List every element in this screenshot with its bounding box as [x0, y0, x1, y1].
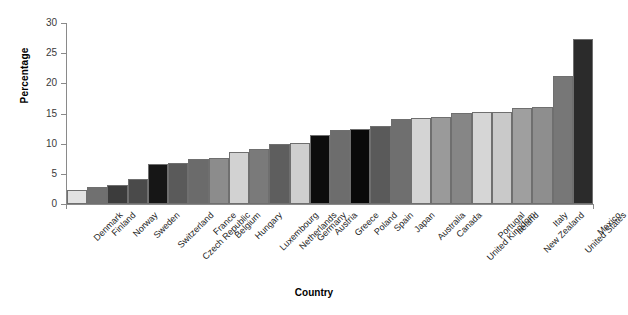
bar [249, 149, 269, 205]
x-axis-line [66, 204, 594, 205]
bar [431, 117, 451, 204]
y-axis-title: Percentage [19, 16, 30, 136]
bar [512, 108, 532, 204]
bar [128, 179, 148, 204]
y-axis-tick-label-wrap: 20 [32, 78, 57, 88]
bar [391, 119, 411, 204]
x-axis-title: Country [0, 287, 628, 298]
bar [532, 107, 552, 204]
bar [310, 135, 330, 204]
y-axis-tick-label-wrap: 15 [32, 109, 57, 119]
bar [330, 130, 350, 204]
bar [492, 112, 512, 204]
plot-area [67, 23, 593, 204]
bar [148, 164, 168, 204]
y-axis-tick-label: 0 [35, 199, 57, 209]
y-axis-tick-label-wrap: 30 [32, 18, 57, 28]
bar [67, 190, 87, 204]
bar [350, 129, 370, 204]
y-axis-tick-label: 30 [35, 18, 57, 28]
bar [269, 144, 289, 204]
bar [290, 143, 310, 204]
bar [573, 39, 593, 204]
y-axis-tick-label: 5 [35, 169, 57, 179]
y-axis-tick-label-wrap: 25 [32, 48, 57, 58]
bar [188, 159, 208, 204]
y-axis-tick-label-wrap: 5 [32, 169, 57, 179]
y-axis-tick-label: 15 [35, 109, 57, 119]
y-axis-tick-label-wrap: 10 [32, 139, 57, 149]
x-axis-category-labels: DenmarkFinlandNorwaySwedenSwitzerlandCze… [67, 206, 593, 286]
x-axis-label: Japan [412, 210, 436, 234]
y-axis-tick-label: 20 [35, 78, 57, 88]
bar [229, 152, 249, 204]
bar-chart: Percentage 051015202530 DenmarkFinlandNo… [0, 0, 628, 315]
bar [451, 113, 471, 204]
bar [107, 185, 127, 204]
y-axis-tick-label: 25 [35, 48, 57, 58]
bar [370, 126, 390, 204]
bar [472, 112, 492, 204]
bar [209, 158, 229, 204]
bar [411, 118, 431, 204]
y-axis-tick-label: 10 [35, 139, 57, 149]
y-axis-tick-label-wrap: 0 [32, 199, 57, 209]
x-axis-label-text: Japan [412, 210, 436, 234]
bar [87, 187, 107, 204]
bar [168, 163, 188, 204]
x-axis-right-cap [593, 204, 594, 209]
bar [553, 76, 573, 205]
